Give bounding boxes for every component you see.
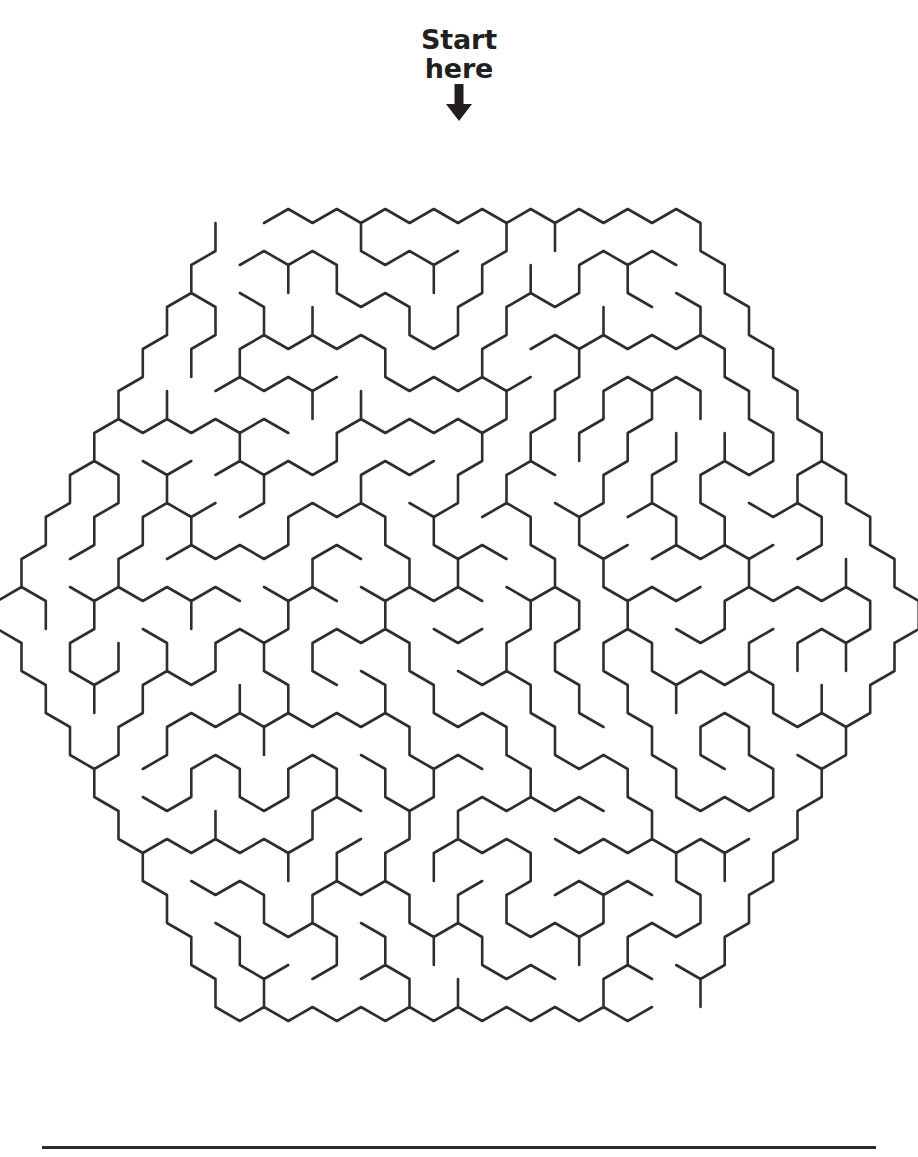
- maze-page: Start here: [0, 0, 918, 1157]
- footer-divider: [42, 1146, 876, 1149]
- maze-wall-path: [0, 209, 918, 1021]
- maze-walls: [0, 209, 918, 1021]
- hexagonal-maze: [0, 0, 918, 1157]
